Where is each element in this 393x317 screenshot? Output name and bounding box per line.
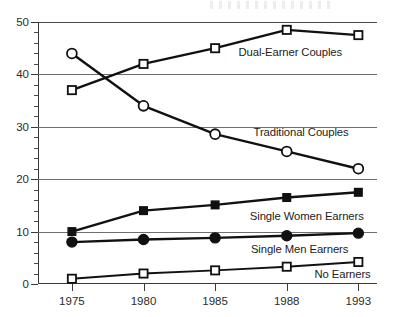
x-axis-label-1975: 1975 [59,295,85,307]
data-point-1993 [354,31,362,39]
x-tick-1980 [144,284,145,291]
y-tick-major-20 [31,179,38,180]
data-point-1993 [354,258,362,266]
series-annotation-dual-earner-couples: Dual-Earner Couples [239,46,343,58]
data-point-1985 [211,201,219,209]
series-traditional-couples [67,49,363,174]
y-axis-label-0: 0 [23,278,29,290]
x-axis-label-1988: 1988 [274,295,300,307]
data-point-1985 [210,233,220,243]
data-point-1988 [283,26,291,34]
data-point-1988 [282,147,292,157]
data-point-1980 [139,234,149,244]
series-line [72,30,358,90]
y-tick-major-10 [31,232,38,233]
scan-artifact [210,1,330,9]
data-point-1993 [353,228,363,238]
y-axis-label-30: 30 [16,121,29,133]
y-axis-label-10: 10 [16,226,29,238]
chart-figure: 01020304050 19751980198519881993 Dual-Ea… [0,0,393,317]
data-point-1980 [139,101,149,111]
series-line [72,53,358,168]
plot-area: 01020304050 19751980198519881993 Dual-Ea… [38,22,377,284]
data-point-1980 [139,60,147,68]
series-annotation-traditional-couples: Traditional Couples [254,126,349,138]
x-axis-label-1985: 1985 [202,295,228,307]
data-point-1975 [68,275,76,283]
x-tick-1975 [72,284,73,291]
data-point-1988 [283,194,291,202]
y-axis-label-40: 40 [16,68,29,80]
series-annotation-no-earners: No Earners [315,268,371,280]
y-axis-label-20: 20 [16,173,29,185]
series-annotation-single-women-earners: Single Women Earners [250,210,364,222]
x-axis-label-1993: 1993 [346,295,372,307]
data-point-1975 [67,237,77,247]
series-annotation-single-men-earners: Single Men Earners [251,243,348,255]
y-tick-major-50 [31,22,38,23]
data-point-1975 [68,228,76,236]
x-axis-label-1980: 1980 [131,295,157,307]
data-point-1988 [283,263,291,271]
x-tick-1993 [358,284,359,291]
y-tick-major-30 [31,127,38,128]
x-tick-1985 [215,284,216,291]
x-tick-1988 [287,284,288,291]
y-tick-major-0 [31,284,38,285]
data-point-1975 [67,49,77,59]
y-tick-major-40 [31,74,38,75]
data-point-1988 [282,231,292,241]
data-point-1985 [210,129,220,139]
y-axis-label-50: 50 [16,16,29,28]
data-point-1993 [355,189,363,197]
data-point-1993 [353,164,363,174]
data-point-1980 [139,269,147,277]
data-point-1980 [140,207,148,215]
data-point-1985 [211,44,219,52]
data-point-1975 [68,86,76,94]
data-point-1985 [211,266,219,274]
